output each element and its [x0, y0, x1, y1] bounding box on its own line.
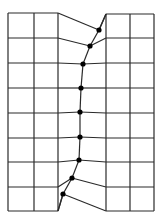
crack-node [78, 85, 83, 90]
crack-connector [72, 178, 106, 187]
crack-connector [80, 112, 106, 113]
crack-node [77, 134, 82, 139]
crack-node [87, 43, 92, 48]
crack-connector [58, 13, 99, 30]
crack-connector [83, 63, 106, 64]
crack-path [80, 88, 81, 112]
mesh-svg [0, 0, 161, 223]
crack-path [81, 64, 83, 88]
crack-node [60, 191, 65, 196]
crack-node [96, 27, 101, 32]
crack-path [58, 194, 63, 211]
crack-connector [80, 137, 106, 138]
crack-connector [63, 194, 106, 211]
crack-connector [58, 63, 83, 64]
crack-node [69, 175, 74, 180]
crack-path [99, 14, 106, 30]
crack-connector [58, 38, 90, 46]
crack-connector [79, 160, 106, 162]
crack-path [79, 137, 80, 160]
crack-connector [58, 160, 79, 162]
crack-connector [58, 112, 80, 113]
mesh-diagram [0, 0, 161, 223]
crack-path [72, 160, 79, 178]
crack-path [83, 46, 90, 64]
crack-connector [58, 137, 80, 138]
crack-node [77, 109, 82, 114]
crack-node [76, 157, 81, 162]
crack-node [80, 61, 85, 66]
